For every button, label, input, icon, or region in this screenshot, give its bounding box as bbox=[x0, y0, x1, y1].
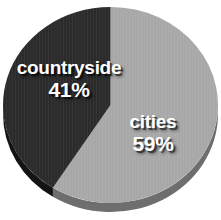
pie-chart: countryside 41% cities 59% bbox=[0, 0, 221, 220]
pie-chart-graphic bbox=[0, 0, 221, 220]
